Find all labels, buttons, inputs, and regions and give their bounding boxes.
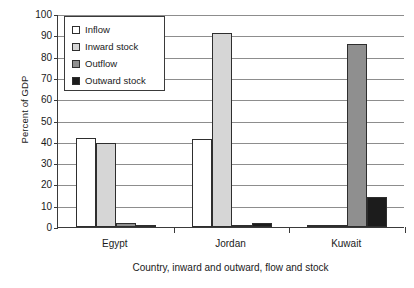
x-tick-mark: [405, 227, 406, 233]
legend-item: Outward stock: [72, 73, 164, 89]
legend-label: Inward stock: [85, 42, 138, 52]
y-tick-label: 30: [26, 159, 52, 169]
y-tick-label: 80: [26, 53, 52, 63]
y-tick-label: 10: [26, 202, 52, 212]
legend-label: Inflow: [85, 25, 110, 35]
x-tick-mark: [174, 227, 175, 233]
y-axis-tick-labels: 0102030405060708090100: [26, 0, 52, 288]
bar: [367, 197, 387, 227]
bar: [327, 225, 347, 227]
legend-swatch-icon: [72, 26, 80, 34]
bar: [307, 225, 327, 227]
legend-swatch-icon: [72, 77, 80, 85]
legend-item: Outflow: [72, 56, 164, 72]
x-tick-mark: [289, 227, 290, 233]
y-tick-label: 0: [26, 223, 52, 233]
bar-group: [307, 15, 387, 227]
bar-group: [192, 15, 272, 227]
bar: [76, 138, 96, 227]
y-tick-label: 40: [26, 138, 52, 148]
y-tick-label: 70: [26, 74, 52, 84]
bar: [96, 143, 116, 227]
x-category-label: Jordan: [173, 238, 289, 249]
legend-item: Inward stock: [72, 39, 164, 55]
x-category-label: Kuwait: [288, 238, 404, 249]
bar: [232, 225, 252, 227]
bar-chart: Percent of GDP 0102030405060708090100 Eg…: [0, 0, 414, 288]
x-category-label: Egypt: [57, 238, 173, 249]
y-tick-label: 90: [26, 31, 52, 41]
bar: [212, 33, 232, 227]
y-tick-label: 60: [26, 95, 52, 105]
y-tick-mark: [54, 228, 58, 229]
legend-item: Inflow: [72, 22, 164, 38]
bar: [136, 225, 156, 227]
bar: [116, 223, 136, 227]
legend-swatch-icon: [72, 43, 80, 51]
legend-label: Outward stock: [85, 76, 146, 86]
legend: InflowInward stockOutflowOutward stock: [64, 16, 165, 91]
y-tick-label: 20: [26, 180, 52, 190]
legend-label: Outflow: [85, 59, 117, 69]
bar: [252, 223, 272, 227]
bar: [347, 44, 367, 227]
bar: [192, 139, 212, 227]
legend-swatch-icon: [72, 60, 80, 68]
x-axis-title: Country, inward and outward, flow and st…: [57, 262, 404, 273]
y-tick-label: 50: [26, 117, 52, 127]
y-tick-label: 100: [26, 10, 52, 20]
